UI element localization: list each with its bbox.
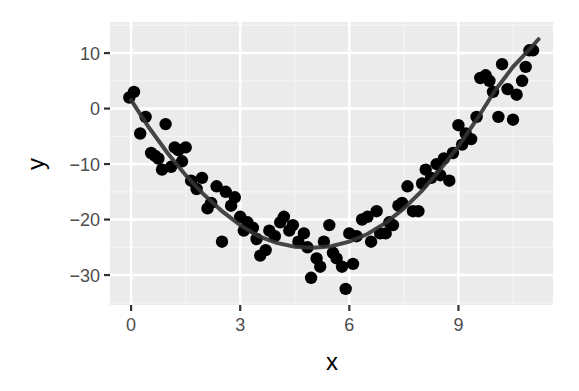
x-tick-label: 3 (235, 315, 245, 335)
data-point (520, 61, 532, 73)
data-point (492, 111, 504, 123)
data-point (510, 89, 522, 101)
y-axis-title: y (22, 158, 49, 170)
y-tick-label: −30 (69, 266, 100, 286)
data-point (159, 118, 171, 130)
x-tick-label: 0 (126, 315, 136, 335)
data-point (260, 244, 272, 256)
data-point (298, 227, 310, 239)
x-axis: 0369 (126, 305, 463, 335)
data-point (516, 75, 528, 87)
scatter-chart: 0369 100−10−20−30 x y (0, 0, 579, 391)
y-tick-label: 0 (90, 99, 100, 119)
data-point (216, 236, 228, 248)
data-point (305, 272, 317, 284)
y-tick-label: −10 (69, 155, 100, 175)
data-point (336, 261, 348, 273)
x-axis-title: x (326, 348, 338, 375)
data-point (483, 75, 495, 87)
data-point (412, 205, 424, 217)
x-tick-label: 6 (344, 315, 354, 335)
data-point (128, 86, 140, 98)
data-point (370, 205, 382, 217)
data-point (152, 152, 164, 164)
data-point (314, 261, 326, 273)
y-tick-label: 10 (80, 44, 100, 64)
x-tick-label: 9 (453, 315, 463, 335)
data-point (443, 175, 455, 187)
data-point (323, 219, 335, 231)
data-point (496, 58, 508, 70)
data-point (180, 141, 192, 153)
y-tick-label: −20 (69, 210, 100, 230)
data-point (134, 127, 146, 139)
data-point (507, 114, 519, 126)
data-point (340, 283, 352, 295)
data-point (287, 219, 299, 231)
data-point (401, 180, 413, 192)
y-axis: 100−10−20−30 (69, 44, 110, 286)
data-point (196, 172, 208, 184)
data-point (347, 258, 359, 270)
data-point (229, 191, 241, 203)
